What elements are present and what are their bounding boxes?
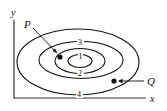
point-q-label: Q xyxy=(147,75,155,87)
contour-label-1: 1 xyxy=(79,52,83,61)
contour-label-4: 4 xyxy=(77,90,81,99)
contour-diagram: y x 3 1 2 4 P Q xyxy=(0,0,167,111)
point-p xyxy=(57,54,62,59)
contour-label-3: 3 xyxy=(78,38,82,47)
arrowhead-q-icon xyxy=(118,79,123,83)
x-axis-label: x xyxy=(149,93,155,104)
contour-label-2: 2 xyxy=(78,69,82,78)
y-axis-label: y xyxy=(10,7,16,18)
point-p-label: P xyxy=(23,18,31,30)
point-q xyxy=(111,78,116,83)
